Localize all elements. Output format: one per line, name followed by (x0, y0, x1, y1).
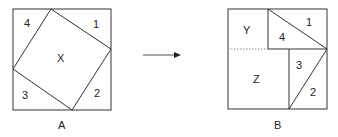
label-b-3: 3 (296, 59, 302, 71)
label-b-z: Z (253, 73, 260, 85)
label-b-4: 4 (279, 31, 285, 43)
diagram-canvas: 4 1 X 3 2 A Y 1 4 Z 3 2 B (0, 0, 338, 137)
label-a-x: X (57, 52, 65, 64)
label-b-1: 1 (306, 16, 312, 28)
label-a-4: 4 (24, 17, 30, 29)
label-a-1: 1 (93, 18, 99, 30)
label-b-2: 2 (310, 86, 316, 98)
label-b-y: Y (243, 24, 251, 36)
figure-a: 4 1 X 3 2 A (13, 9, 111, 131)
label-a-3: 3 (22, 89, 28, 101)
label-a-2: 2 (94, 87, 100, 99)
diagonal-upper (268, 9, 327, 49)
caption-b: B (274, 119, 281, 131)
caption-a: A (58, 119, 66, 131)
arrow-right-icon (143, 52, 181, 58)
figure-b: Y 1 4 Z 3 2 B (228, 9, 327, 131)
diagonal-lower (289, 49, 327, 109)
